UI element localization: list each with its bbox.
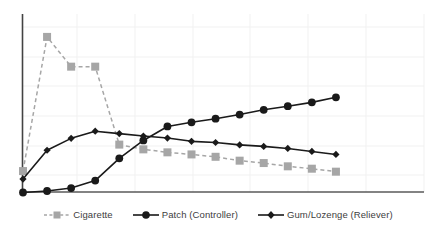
data-point-diamond[interactable] <box>188 138 195 145</box>
chart-legend: Cigarette Patch (Controller) Gum/Lozenge… <box>0 203 437 227</box>
data-point-circle[interactable] <box>19 189 27 197</box>
legend-label-cigarette: Cigarette <box>73 210 112 220</box>
chart-container: Cigarette Patch (Controller) Gum/Lozenge… <box>0 0 437 233</box>
data-point-square[interactable] <box>260 159 268 167</box>
data-point-square[interactable] <box>43 33 51 41</box>
data-point-circle[interactable] <box>67 184 75 192</box>
data-point-circle[interactable] <box>91 177 99 185</box>
data-point-circle[interactable] <box>260 106 268 114</box>
data-point-square[interactable] <box>139 145 147 153</box>
data-point-circle[interactable] <box>332 93 340 101</box>
legend-marker-diamond-icon <box>258 209 284 221</box>
data-point-circle[interactable] <box>236 111 244 119</box>
data-point-circle[interactable] <box>212 115 220 123</box>
legend-item-patch[interactable]: Patch (Controller) <box>133 209 238 221</box>
legend-item-gum-lozenge[interactable]: Gum/Lozenge (Reliever) <box>258 209 393 221</box>
data-point-square[interactable] <box>212 153 220 161</box>
data-point-diamond[interactable] <box>308 148 315 155</box>
data-point-circle[interactable] <box>115 154 123 162</box>
data-point-circle[interactable] <box>164 123 172 131</box>
gridlines-horizontal <box>22 27 424 175</box>
data-point-circle[interactable] <box>308 98 316 106</box>
legend-item-cigarette[interactable]: Cigarette <box>44 209 112 221</box>
data-point-circle[interactable] <box>188 118 196 126</box>
gridlines-vertical <box>77 14 424 192</box>
legend-label-patch: Patch (Controller) <box>162 210 238 220</box>
data-point-diamond[interactable] <box>92 128 99 135</box>
series-line <box>23 97 336 192</box>
data-point-square[interactable] <box>91 63 99 71</box>
data-point-diamond[interactable] <box>68 135 75 142</box>
data-point-square[interactable] <box>308 165 316 173</box>
legend-marker-square-icon <box>44 209 70 221</box>
data-point-square[interactable] <box>115 141 123 149</box>
legend-marker-circle-icon <box>133 209 159 221</box>
data-point-square[interactable] <box>188 150 196 158</box>
data-point-diamond[interactable] <box>116 130 123 137</box>
series-gum-lozenge-reliever <box>19 128 339 183</box>
series-cigarette <box>19 33 340 176</box>
data-point-square[interactable] <box>332 168 340 176</box>
legend-label-gum-lozenge: Gum/Lozenge (Reliever) <box>287 210 393 220</box>
data-point-circle[interactable] <box>284 102 292 110</box>
data-point-diamond[interactable] <box>236 141 243 148</box>
line-chart-plot <box>0 0 437 233</box>
data-point-diamond[interactable] <box>212 139 219 146</box>
data-point-diamond[interactable] <box>164 134 171 141</box>
data-point-square[interactable] <box>236 157 244 165</box>
data-point-square[interactable] <box>67 63 75 71</box>
data-point-diamond[interactable] <box>260 143 267 150</box>
data-point-circle[interactable] <box>43 187 51 195</box>
data-point-square[interactable] <box>284 162 292 170</box>
data-point-square[interactable] <box>19 167 27 175</box>
data-point-diamond[interactable] <box>332 151 339 158</box>
series-patch-controller <box>19 93 340 196</box>
data-point-square[interactable] <box>163 148 171 156</box>
